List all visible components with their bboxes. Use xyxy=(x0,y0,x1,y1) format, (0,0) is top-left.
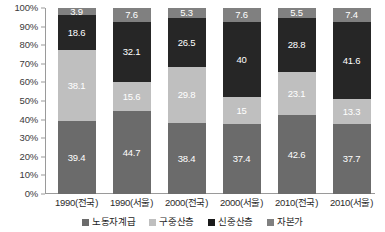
y-axis-tick-label: 30% xyxy=(20,133,38,143)
bar-value-label: 5.3 xyxy=(180,8,193,18)
bar-group[interactable]: 7.441.613.337.7 xyxy=(333,8,371,194)
y-axis-tick-label: 60% xyxy=(20,78,38,88)
bar-segment[interactable]: 5.5 xyxy=(278,8,316,18)
bar-segment[interactable]: 15 xyxy=(223,97,261,125)
bar-value-label: 41.6 xyxy=(343,56,361,66)
bar-segment[interactable]: 3.9 xyxy=(58,8,96,15)
bar-value-label: 38.1 xyxy=(68,81,86,91)
bar-segment[interactable]: 42.6 xyxy=(278,115,316,194)
bar-stack: 7.6401537.4 xyxy=(223,8,261,194)
y-axis-tick-label: 100% xyxy=(15,3,39,13)
y-axis-tick-label: 20% xyxy=(20,152,38,162)
bar-segment[interactable]: 39.4 xyxy=(58,121,96,194)
legend-swatch-icon xyxy=(267,219,274,226)
bar-value-label: 38.4 xyxy=(178,154,196,164)
y-axis-tick-label: 80% xyxy=(20,40,38,50)
bar-value-label: 39.4 xyxy=(68,153,86,163)
bar-value-label: 7.6 xyxy=(235,10,248,20)
bar-segment[interactable]: 32.1 xyxy=(113,22,151,82)
bar-group[interactable]: 5.528.823.142.6 xyxy=(278,8,316,194)
legend-item[interactable]: 신중산층 xyxy=(208,217,253,227)
bar-segment[interactable]: 26.5 xyxy=(168,18,206,67)
bar-segment[interactable]: 7.6 xyxy=(113,8,151,22)
bar-segment[interactable]: 28.8 xyxy=(278,18,316,72)
bar-group[interactable]: 7.632.115.644.7 xyxy=(113,8,151,194)
y-axis-tick-label: 90% xyxy=(20,22,38,32)
bar-value-label: 44.7 xyxy=(123,148,141,158)
bar-value-label: 26.5 xyxy=(178,38,196,48)
legend-swatch-icon xyxy=(82,219,89,226)
y-axis-tick-label: 70% xyxy=(20,59,38,69)
bar-segment[interactable]: 13.3 xyxy=(333,99,371,124)
bar-segment[interactable]: 37.7 xyxy=(333,124,371,194)
y-axis-tick-label: 0% xyxy=(25,189,38,199)
bar-value-label: 15 xyxy=(236,106,246,116)
bar-stack: 7.632.115.644.7 xyxy=(113,8,151,194)
bar-segment[interactable]: 7.6 xyxy=(223,8,261,22)
stacked-bar-chart: 100%90%80%70%60%50%40%30%20%10%0% 3.918.… xyxy=(0,0,385,232)
bar-value-label: 37.7 xyxy=(343,154,361,164)
legend-swatch-icon xyxy=(149,219,156,226)
bar-value-label: 15.6 xyxy=(123,92,141,102)
y-axis-tick-label: 10% xyxy=(20,171,38,181)
bar-value-label: 13.3 xyxy=(343,107,361,117)
bar-stack: 3.918.638.139.4 xyxy=(58,8,96,194)
bar-value-label: 42.6 xyxy=(288,150,306,160)
bar-value-label: 23.1 xyxy=(288,89,306,99)
bar-value-label: 18.6 xyxy=(68,28,86,38)
bar-value-label: 32.1 xyxy=(123,47,141,57)
bar-segment[interactable]: 38.1 xyxy=(58,50,96,121)
bar-group[interactable]: 7.6401537.4 xyxy=(223,8,261,194)
bar-value-label: 40 xyxy=(236,55,246,65)
bar-segment[interactable]: 41.6 xyxy=(333,22,371,99)
bar-segment[interactable]: 18.6 xyxy=(58,15,96,50)
bar-value-label: 7.4 xyxy=(345,10,358,20)
bar-stack: 5.528.823.142.6 xyxy=(278,8,316,194)
chart-legend: 노동자계급구중산층신중산층자본가 xyxy=(0,214,385,230)
bar-segment[interactable]: 23.1 xyxy=(278,72,316,115)
bar-value-label: 28.8 xyxy=(288,40,306,50)
bar-segment[interactable]: 38.4 xyxy=(168,123,206,194)
bar-segment[interactable]: 7.4 xyxy=(333,8,371,22)
x-axis-category-label: 2010(서울) xyxy=(320,196,384,210)
y-axis: 100%90%80%70%60%50%40%30%20%10%0% xyxy=(0,0,45,195)
legend-label: 신중산층 xyxy=(218,217,253,227)
bar-stack: 5.326.529.838.4 xyxy=(168,8,206,194)
legend-label: 자본가 xyxy=(277,217,303,227)
legend-item[interactable]: 자본가 xyxy=(267,217,303,227)
bar-stack: 7.441.613.337.7 xyxy=(333,8,371,194)
bar-value-label: 7.6 xyxy=(125,10,138,20)
bar-segment[interactable]: 37.4 xyxy=(223,124,261,194)
bar-value-label: 37.4 xyxy=(233,154,251,164)
bar-group[interactable]: 3.918.638.139.4 xyxy=(58,8,96,194)
bar-group[interactable]: 5.326.529.838.4 xyxy=(168,8,206,194)
bar-value-label: 29.8 xyxy=(178,90,196,100)
bar-value-label: 5.5 xyxy=(290,8,303,18)
bars-layer: 3.918.638.139.47.632.115.644.75.326.529.… xyxy=(45,8,375,194)
bar-segment[interactable]: 29.8 xyxy=(168,67,206,122)
bar-value-label: 3.9 xyxy=(70,8,83,15)
x-axis: 1990(전국)1990(서울)2000(전국)2000(서울)2010(전국)… xyxy=(45,196,375,212)
legend-swatch-icon xyxy=(208,219,215,226)
legend-label: 노동자계급 xyxy=(92,217,136,227)
y-axis-tick-label: 50% xyxy=(20,96,38,106)
legend-item[interactable]: 구중산층 xyxy=(149,217,194,227)
legend-label: 구중산층 xyxy=(159,217,194,227)
bar-segment[interactable]: 15.6 xyxy=(113,82,151,111)
bar-segment[interactable]: 44.7 xyxy=(113,111,151,194)
bar-segment[interactable]: 40 xyxy=(223,22,261,96)
y-axis-tick-label: 40% xyxy=(20,115,38,125)
bar-segment[interactable]: 5.3 xyxy=(168,8,206,18)
legend-item[interactable]: 노동자계급 xyxy=(82,217,136,227)
